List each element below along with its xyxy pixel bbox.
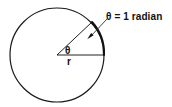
radius-label: r: [67, 57, 71, 67]
center-angle-label: θ: [65, 46, 70, 56]
arc-mark-icon: [92, 22, 104, 55]
angled-radius-line: [57, 22, 92, 55]
radian-annotation-label: θ = 1 radian: [106, 12, 162, 22]
radian-diagram: θ = 1 radian θ r: [0, 0, 172, 107]
